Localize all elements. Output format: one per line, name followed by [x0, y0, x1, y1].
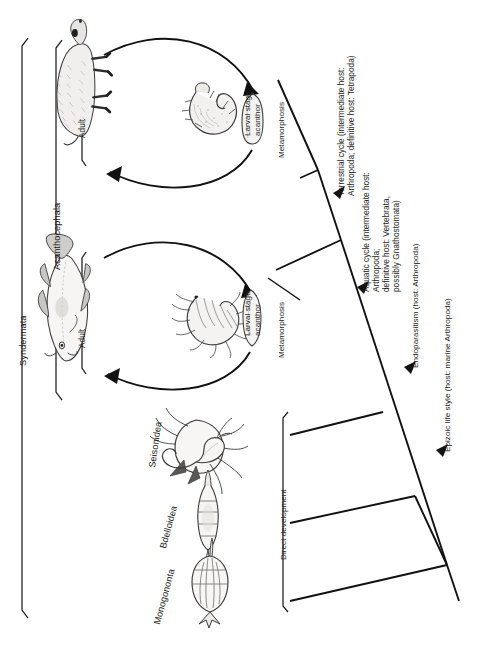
beetle-grub-illustration [182, 83, 236, 134]
larval-stage-label-aquatic: Larval stage: acanthor [243, 289, 262, 336]
branch-annotation-aquatic-cycle: Aquatic cycle (intermediate host: Arthro… [362, 168, 402, 292]
larval-stage-label-terrestrial: Larval stage: acanthor [243, 89, 262, 136]
adult-label-terrestrial: Adult [78, 119, 88, 138]
adult-label-aquatic: Adult [78, 329, 88, 348]
branch-annotation-epizoic: Epizoic life style (host: marine Arthrop… [443, 298, 453, 452]
branch-annotation-endoparasitism: Endoparasitism (host: Arthropoda) [411, 244, 421, 368]
metamorphosis-label-aquatic: Metamorphosis [277, 302, 287, 358]
bracket-label-syndermata: Syndermata [18, 315, 29, 366]
monogonont-rotifer-illustration [192, 538, 228, 628]
amphipod-illustration [172, 292, 254, 358]
branch-annotation-terrestrial-cycle: Terrestrial cycle (intermediate host: Ar… [337, 55, 357, 196]
metamorphosis-label-terrestrial: Metamorphosis [277, 102, 287, 158]
cladogram-figure: Syndermata Acanthocephala Direct develop… [0, 0, 486, 645]
bracket-label-direct-development: Direct development [279, 489, 289, 560]
bdelloid-rotifer-illustration [198, 470, 218, 568]
bracket-label-acanthocephala: Acanthocephala [52, 203, 63, 270]
